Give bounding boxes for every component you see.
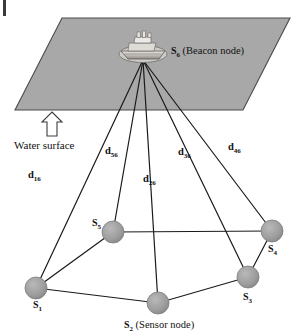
diagram-canvas [0, 0, 299, 336]
edge-s2-s3 [158, 277, 248, 303]
water-surface-label: Water surface [14, 140, 75, 151]
figure-container: S6 (Beacon node) Water surface d16 d56 d… [0, 0, 299, 336]
water-surface-plane [15, 18, 290, 110]
S4-subscript: 4 [274, 249, 278, 257]
node-label-S5: S5 [92, 218, 101, 231]
distance-label-d36: d36 [178, 147, 191, 160]
node-S1[interactable] [25, 277, 47, 299]
distance-label-d46: d46 [228, 142, 241, 155]
edge-s1-s2 [36, 288, 158, 303]
S5-subscript: 5 [98, 223, 102, 231]
edge-s5-s1 [36, 232, 113, 288]
edge-s4-s5 [113, 231, 272, 232]
node-label-S1: S1 [33, 300, 42, 313]
d56-subscript: 56 [111, 151, 118, 159]
up-arrow-icon [42, 112, 62, 136]
d46-subscript: 46 [234, 147, 241, 155]
distance-label-d26: d26 [143, 174, 156, 187]
distance-label-d16: d16 [28, 170, 41, 183]
node-label-S4: S4 [268, 244, 277, 257]
distance-label-d56: d56 [105, 146, 118, 159]
node-label-S3: S3 [243, 292, 252, 305]
d16-subscript: 16 [34, 175, 41, 183]
d26-subscript: 26 [149, 179, 156, 187]
node-label-S2: S2 (Sensor node) [124, 320, 194, 333]
d36-subscript: 36 [184, 152, 191, 160]
S1-subscript: 1 [39, 305, 43, 313]
node-S2[interactable] [147, 292, 169, 314]
S2-caption: (Sensor node) [136, 319, 195, 330]
beacon-caption: (Beacon node) [183, 45, 245, 56]
beacon-subscript: 6 [177, 51, 181, 59]
node-S4[interactable] [261, 220, 283, 242]
node-S5[interactable] [102, 221, 124, 243]
S3-subscript: 3 [249, 297, 253, 305]
S2-subscript: 2 [130, 325, 134, 333]
node-S3[interactable] [237, 266, 259, 288]
beacon-label: S6 (Beacon node) [171, 46, 244, 59]
